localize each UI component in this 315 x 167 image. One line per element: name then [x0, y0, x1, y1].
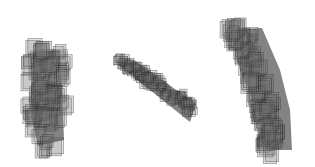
voxel-face: [28, 108, 42, 121]
voxel-scene: [0, 0, 315, 167]
voxel-face: [186, 98, 194, 105]
voxel-face: [136, 63, 142, 71]
voxel-face: [261, 78, 272, 91]
voxel-face: [116, 54, 124, 63]
voxel-face: [55, 44, 65, 56]
voxel-face: [169, 95, 177, 103]
voxel-face: [35, 81, 47, 93]
voxel-face: [155, 76, 164, 84]
voxel-face: [60, 96, 74, 113]
voxel-face: [252, 60, 267, 73]
voxel-face: [125, 64, 134, 71]
voxel-object-diagonal: [113, 54, 197, 122]
voxel-face: [145, 74, 153, 83]
voxel-face: [264, 123, 275, 141]
voxel-object-vertical: [21, 39, 74, 158]
voxel-face: [229, 26, 239, 39]
voxel-face: [180, 89, 187, 96]
voxel-object-curved: [220, 18, 292, 164]
voxel-face: [43, 134, 54, 147]
voxel-face: [244, 72, 259, 88]
voxel-face: [261, 101, 273, 114]
voxel-face: [56, 70, 70, 84]
voxel-face: [23, 72, 33, 88]
